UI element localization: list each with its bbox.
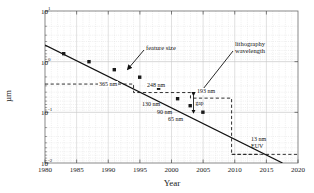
ytick-exponent: -1 [48, 108, 52, 113]
xtick-label-1985: 1985 [70, 166, 84, 174]
annotation-litho-line2: wavelength [235, 47, 265, 54]
xtick-label-1980: 1980 [38, 166, 52, 174]
ytick-mantissa: 10 [41, 58, 48, 66]
xtick-label-1995: 1995 [133, 166, 147, 174]
xtick-label-2010: 2010 [228, 166, 242, 174]
annotation-litho-line1: lithography [235, 40, 265, 47]
annotation-feature-size: feature size [146, 44, 176, 51]
annotation-euv-line2: EUV [251, 143, 266, 150]
data-label-90nm: 90 nm [157, 109, 172, 116]
annotation-euv: 13 nm EUV [251, 136, 266, 149]
ytick-mantissa: 10 [41, 8, 48, 16]
xtick-label-2000: 2000 [165, 166, 179, 174]
x-axis-title: Year [164, 178, 181, 188]
ytick-exponent: 0 [48, 57, 51, 62]
y-axis-title: µm [3, 90, 13, 102]
xtick-label-2005: 2005 [196, 166, 210, 174]
data-label-65nm: 65 nm [168, 116, 183, 123]
ytick-mantissa: 10 [41, 109, 48, 117]
ytick-label-1em1: 10-1 [41, 108, 52, 117]
data-label-365nm: 365 nm [98, 81, 118, 88]
data-label-130nm: 130 nm [142, 101, 160, 108]
ytick-label-1e1: 101 [41, 6, 51, 15]
xtick-label-2015: 2015 [259, 166, 273, 174]
data-label-193nm: 193 nm [196, 88, 216, 95]
ytick-exponent: 1 [48, 6, 51, 11]
annotation-gap: gap [196, 100, 204, 106]
xtick-label-2020: 2020 [291, 166, 305, 174]
data-label-248nm: 248 nm [146, 82, 166, 89]
chart-figure: 101 100 10-1 10-2 1980 1985 1990 1995 20… [0, 0, 314, 193]
annotation-lithography-wavelength: lithography wavelength [235, 40, 265, 55]
xtick-label-1990: 1990 [101, 166, 115, 174]
ytick-label-1e0: 100 [41, 57, 51, 66]
annotation-euv-line1: 13 nm [251, 136, 266, 143]
ytick-exponent: -2 [48, 158, 52, 163]
